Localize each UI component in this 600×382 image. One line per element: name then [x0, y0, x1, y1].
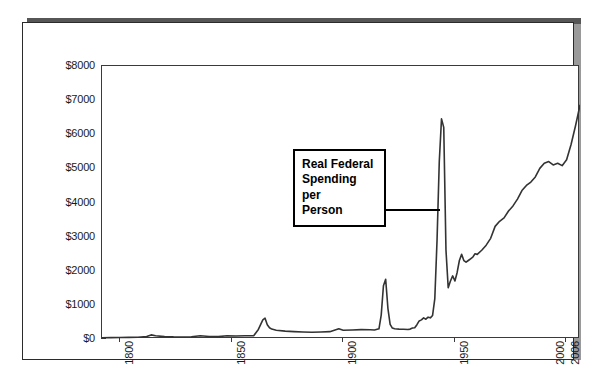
y-tick-label-3000: $3000: [65, 230, 95, 242]
x-tick-label-1850: 1850: [235, 341, 247, 365]
x-tick-label-1900: 1900: [346, 341, 358, 365]
annotation-line-2: Spending per: [302, 172, 377, 203]
x-tick-label-2006: 2006: [569, 341, 581, 365]
y-tick-label-1000: $1000: [65, 298, 95, 310]
y-tick-label-6000: $6000: [65, 127, 95, 139]
y-tick-label-5000: $5000: [65, 161, 95, 173]
x-axis-labels: 1800 1850 1900 1950 2000 2006: [101, 341, 579, 382]
annotation-callout-box: Real Federal Spending per Person: [293, 149, 386, 227]
y-tick-label-4000: $4000: [65, 196, 95, 208]
annotation-leader-line: [386, 209, 440, 211]
y-tick-label-7000: $7000: [65, 93, 95, 105]
annotation-line-1: Real Federal: [302, 157, 377, 172]
y-tick-label-2000: $2000: [65, 264, 95, 276]
annotation-line-3: Person: [302, 203, 377, 218]
y-tick-label-0: $0: [83, 332, 95, 344]
chart-figure: $8000 $7000 $6000 $5000 $4000 $3000 $200…: [0, 0, 600, 382]
y-tick-label-8000: $8000: [65, 59, 95, 71]
x-tick-label-1950: 1950: [458, 341, 470, 365]
y-axis-labels: $8000 $7000 $6000 $5000 $4000 $3000 $200…: [41, 65, 95, 338]
x-tick-label-2000: 2000: [554, 341, 566, 365]
x-tick-label-1800: 1800: [123, 341, 135, 365]
chart-frame: $8000 $7000 $6000 $5000 $4000 $3000 $200…: [22, 22, 574, 360]
